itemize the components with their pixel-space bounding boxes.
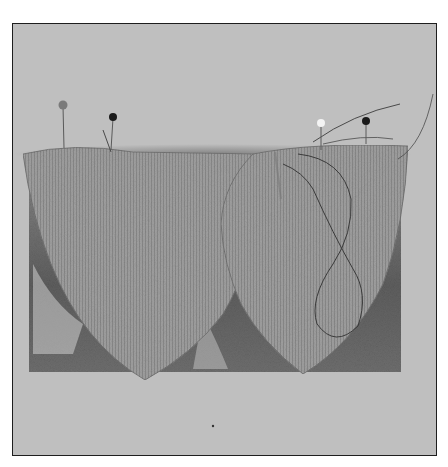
photograph bbox=[13, 24, 437, 456]
photo-frame bbox=[12, 23, 437, 456]
speck bbox=[212, 425, 214, 427]
pin-head-icon bbox=[109, 113, 117, 121]
pin-head-icon bbox=[317, 119, 325, 127]
pin-head-icon bbox=[362, 117, 370, 125]
pin-head-icon bbox=[59, 101, 68, 110]
